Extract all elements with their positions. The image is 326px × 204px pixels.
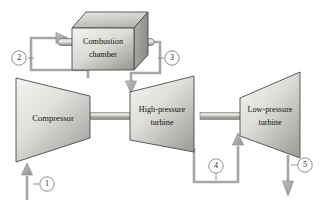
hp-turbine-label-line1: High-pressure: [139, 105, 186, 114]
state-point-4: 4: [209, 159, 223, 180]
compressor-label: Compressor: [32, 113, 74, 123]
exhaust-arrow: [283, 181, 294, 196]
combustion-chamber-label-line1: Combustion: [83, 37, 123, 46]
lp-turbine-exhaust-flow: [283, 155, 294, 196]
lp-turbine-label-line2: turbine: [258, 118, 282, 127]
gas-turbine-diagram: Compressor Combustion chamber High-press…: [0, 0, 326, 204]
hp-turbine-label-line2: turbine: [150, 118, 174, 127]
state-1-label: 1: [45, 179, 49, 188]
pipe-hp-to-lp-turbine: [194, 133, 244, 182]
state-4-label: 4: [214, 161, 218, 170]
lp-turbine-label-line1: Low-pressure: [247, 105, 292, 114]
hp-turbine: High-pressure turbine: [130, 76, 194, 152]
hp-lp-turbine-shaft: [200, 113, 244, 120]
compressor-inlet-flow: [22, 163, 33, 200]
state-point-5: 5: [291, 158, 312, 172]
state-3-label: 3: [170, 53, 174, 62]
state-2-label: 2: [17, 53, 21, 62]
diagram-canvas: Compressor Combustion chamber High-press…: [0, 0, 326, 204]
lp-turbine: Low-pressure turbine: [240, 72, 300, 158]
compressor-hp-turbine-shaft: [90, 113, 136, 120]
combustion-chamber: Combustion chamber: [58, 12, 154, 70]
inlet-arrow: [22, 163, 33, 175]
combustion-chamber-label-line2: chamber: [89, 50, 117, 59]
state-point-1: 1: [33, 177, 54, 191]
compressor: Compressor: [16, 78, 90, 162]
state-5-label: 5: [303, 160, 307, 169]
